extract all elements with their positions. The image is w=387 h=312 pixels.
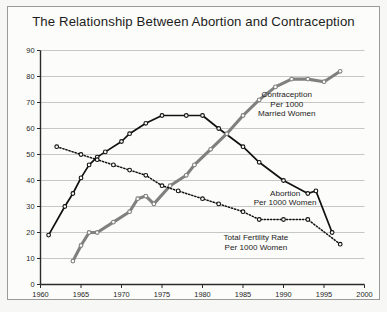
data-point (112, 163, 116, 167)
data-point (217, 127, 221, 131)
data-point (338, 242, 342, 246)
data-point (184, 173, 188, 177)
data-point (160, 184, 164, 188)
y-tick-label-30: 30 (26, 202, 34, 211)
data-point (79, 153, 83, 157)
data-point (87, 231, 91, 235)
data-point (63, 205, 67, 209)
data-point (87, 163, 91, 167)
contraception-label-line: Married Women (258, 109, 315, 118)
x-axis-tick-labels: 196019651970197519801985199019952000 (32, 290, 372, 299)
data-point (282, 179, 286, 183)
x-tick-label-1990: 1990 (275, 290, 291, 299)
x-tick-label-2000: 2000 (356, 290, 372, 299)
fertility-label-line: Total Fertility Rate (224, 233, 289, 242)
y-tick-label-60: 60 (26, 124, 34, 133)
data-point (128, 168, 132, 172)
y-tick-label-80: 80 (26, 72, 34, 81)
fertility-label: Total Fertility RatePer 1000 Women (224, 233, 289, 251)
data-point (103, 150, 107, 154)
data-point (201, 197, 205, 201)
data-point (144, 194, 148, 198)
data-point (306, 218, 310, 222)
x-tick-label-1980: 1980 (194, 290, 210, 299)
data-point (160, 114, 164, 118)
data-point (128, 210, 132, 214)
chart-figure: The Relationship Between Abortion and Co… (0, 0, 387, 312)
data-point (225, 132, 229, 136)
data-point (330, 231, 334, 235)
series-0 (47, 114, 334, 237)
data-point (201, 114, 205, 118)
data-point (241, 145, 245, 149)
x-tick-label-1960: 1960 (32, 290, 48, 299)
data-point (306, 192, 310, 196)
y-axis-tick-labels: 0102030405060708090 (26, 46, 40, 289)
abortion-label-line: Abortion (270, 189, 300, 198)
x-tick-label-1965: 1965 (73, 290, 89, 299)
data-point (241, 114, 245, 118)
y-tick-label-20: 20 (26, 228, 34, 237)
abortion-label-line: Per 1000 Women (254, 198, 317, 207)
axes (41, 51, 365, 285)
y-tick-label-70: 70 (26, 98, 34, 107)
data-point (257, 160, 261, 164)
data-point (79, 176, 83, 180)
data-point (257, 98, 261, 102)
data-point (168, 184, 172, 188)
x-tick-label-1985: 1985 (235, 290, 251, 299)
data-point (306, 77, 310, 81)
data-point (274, 85, 278, 89)
data-point (338, 69, 342, 73)
data-point (144, 173, 148, 177)
contraception-label-line: Contraception (262, 90, 312, 99)
data-point (79, 244, 83, 248)
series-line (49, 116, 333, 236)
contraception-label: ContraceptionPer 1000Married Women (258, 90, 315, 118)
y-tick-label-90: 90 (26, 46, 34, 55)
data-point (128, 132, 132, 136)
data-point (193, 163, 197, 167)
data-point (184, 114, 188, 118)
data-point (144, 121, 148, 125)
x-tick-label-1970: 1970 (113, 290, 129, 299)
data-point (217, 202, 221, 206)
data-point (314, 189, 318, 193)
x-tick-label-1975: 1975 (154, 290, 170, 299)
data-point (152, 202, 156, 206)
data-point (95, 231, 99, 235)
data-point (257, 218, 261, 222)
data-point (290, 77, 294, 81)
data-point (322, 80, 326, 84)
x-tick-label-1995: 1995 (316, 290, 332, 299)
chart-plot-area: 0102030405060708090 19601965197019751980… (0, 0, 387, 312)
data-point (55, 145, 59, 149)
data-point (71, 259, 75, 263)
y-tick-label-0: 0 (30, 280, 34, 289)
data-point (112, 220, 116, 224)
data-point (71, 192, 75, 196)
y-tick-label-10: 10 (26, 254, 34, 263)
fertility-label-line: Per 1000 Women (225, 243, 288, 252)
data-point (282, 218, 286, 222)
contraception-label-line: Per 1000 (270, 100, 303, 109)
data-point (241, 210, 245, 214)
data-point (47, 233, 51, 237)
data-point (120, 140, 124, 144)
y-tick-label-40: 40 (26, 176, 34, 185)
data-point (176, 189, 180, 193)
y-tick-label-50: 50 (26, 150, 34, 159)
data-point (136, 197, 140, 201)
data-point (95, 158, 99, 162)
data-point (209, 147, 213, 151)
